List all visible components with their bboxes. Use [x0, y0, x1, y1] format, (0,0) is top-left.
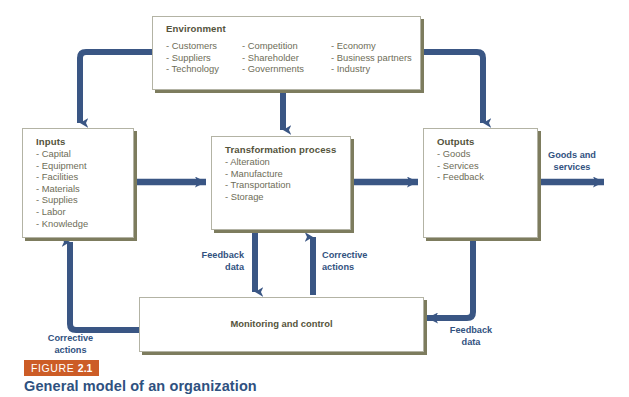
list-item: - Equipment [36, 160, 133, 172]
list-item: - Alteration [225, 156, 350, 168]
list-item: - Industry [331, 63, 412, 75]
list-item: - Transportation [225, 179, 350, 191]
list-item: - Technology [166, 63, 242, 75]
list-item: - Manufacture [225, 168, 350, 180]
list-item: - Services [437, 160, 537, 172]
list-item: - Capital [36, 148, 133, 160]
box-outputs-title: Outputs [437, 136, 537, 147]
box-transformation-process: Transformation process - Alteration - Ma… [211, 136, 351, 230]
list-item: - Competition [242, 40, 331, 52]
box-outputs-list: - Goods - Services - Feedback [437, 148, 537, 183]
list-item: - Customers [166, 40, 242, 52]
box-inputs-title: Inputs [36, 136, 133, 147]
figure-title: General model of an organization [24, 378, 257, 394]
list-item: - Economy [331, 40, 412, 52]
figure-badge-prefix: FIGURE [31, 362, 74, 374]
box-monitoring-title: Monitoring and control [140, 318, 423, 329]
figure-badge-number: 2.1 [78, 362, 93, 374]
box-transformation-list: - Alteration - Manufacture - Transportat… [225, 156, 350, 202]
list-item: - Facilities [36, 171, 133, 183]
box-inputs-list: - Capital - Equipment - Facilities - Mat… [36, 148, 133, 229]
list-item: - Knowledge [36, 218, 133, 230]
label-goods-and-services: Goods and services [533, 150, 611, 173]
box-environment-column-2: - Competition - Shareholder - Government… [242, 40, 331, 75]
figure-caption: FIGURE 2.1 General model of an organizat… [24, 358, 257, 394]
box-environment: Environment - Customers - Suppliers - Te… [152, 16, 421, 90]
figure-canvas: Environment - Customers - Suppliers - Te… [0, 0, 629, 397]
arrow-environment-to-inputs [80, 52, 152, 123]
arrow-feedback-data-right [427, 233, 473, 318]
list-item: - Governments [242, 63, 331, 75]
box-monitoring-and-control: Monitoring and control [139, 297, 424, 352]
list-item: - Feedback [437, 171, 537, 183]
label-feedback-data-center: Feedback data [176, 250, 244, 273]
list-item: - Storage [225, 191, 350, 203]
list-item: - Goods [437, 148, 537, 160]
box-environment-column-3: - Economy - Business partners - Industry [331, 40, 412, 75]
box-inputs: Inputs - Capital - Equipment - Facilitie… [22, 128, 134, 238]
box-outputs: Outputs - Goods - Services - Feedback [423, 128, 538, 238]
box-transformation-title: Transformation process [225, 144, 350, 155]
list-item: - Shareholder [242, 52, 331, 64]
list-item: - Suppliers [166, 52, 242, 64]
box-environment-column-1: - Customers - Suppliers - Technology [166, 40, 242, 75]
arrow-corrective-actions-left [70, 242, 139, 330]
list-item: - Business partners [331, 52, 412, 64]
figure-badge: FIGURE 2.1 [24, 360, 99, 376]
box-environment-title: Environment [153, 17, 420, 34]
list-item: - Materials [36, 183, 133, 195]
list-item: - Labor [36, 206, 133, 218]
arrow-environment-to-outputs [421, 52, 483, 123]
label-feedback-data-right: Feedback data [437, 325, 505, 348]
label-corrective-actions-center: Corrective actions [322, 250, 396, 273]
list-item: - Supplies [36, 194, 133, 206]
label-corrective-actions-left: Corrective actions [33, 333, 108, 356]
